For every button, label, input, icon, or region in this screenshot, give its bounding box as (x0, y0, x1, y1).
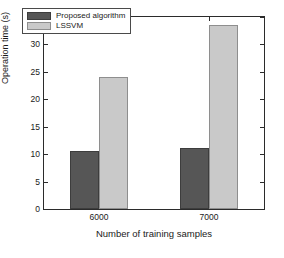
bar-lssvm-7000 (209, 25, 238, 209)
y-axis-tick-right (260, 154, 264, 155)
y-axis-tick-label: 25 (31, 68, 40, 77)
y-axis-tick-right (260, 99, 264, 100)
y-axis-tick-right (260, 17, 264, 18)
y-axis-tick-right (260, 182, 264, 183)
y-axis-tick (44, 72, 48, 73)
plot-frame: 0510152025303560007000 (43, 16, 265, 210)
y-axis-tick-right (260, 44, 264, 45)
legend-item-lssvm: LSSVM (27, 22, 125, 30)
legend-item-proposed-algorithm: Proposed algorithm (27, 12, 125, 20)
chart-legend: Proposed algorithmLSSVM (22, 8, 131, 34)
y-axis-tick (44, 44, 48, 45)
x-axis-tick-label: 7000 (200, 213, 219, 222)
y-axis-tick-label: 0 (35, 205, 40, 214)
x-axis-title: Number of training samples (43, 228, 265, 239)
y-axis-tick-label: 15 (31, 122, 40, 131)
legend-swatch-icon (27, 22, 51, 30)
y-axis-tick (44, 209, 48, 210)
bar-proposed-algorithm-6000 (70, 151, 99, 209)
x-axis-tick-label: 6000 (90, 213, 109, 222)
y-axis-tick-right (260, 209, 264, 210)
y-axis-tick-label: 5 (35, 177, 40, 186)
y-axis-tick (44, 154, 48, 155)
y-axis-tick-label: 20 (31, 95, 40, 104)
legend-label: LSSVM (56, 22, 83, 30)
y-axis-tick-label: 30 (31, 40, 40, 49)
y-axis-tick (44, 182, 48, 183)
y-axis-tick-right (260, 72, 264, 73)
bar-lssvm-6000 (99, 77, 128, 209)
legend-swatch-icon (27, 12, 51, 20)
y-axis-tick-right (260, 127, 264, 128)
x-axis-tick-top (209, 17, 210, 21)
legend-label: Proposed algorithm (56, 12, 125, 20)
y-axis-title: Operation time (s) (0, 0, 10, 113)
plot-area: 0510152025303560007000 (44, 17, 264, 209)
y-axis-tick (44, 127, 48, 128)
bar-proposed-algorithm-7000 (180, 148, 209, 209)
y-axis-tick (44, 99, 48, 100)
chart-figure: Operation time (s) 051015202530356000700… (0, 0, 284, 258)
y-axis-tick-label: 10 (31, 150, 40, 159)
